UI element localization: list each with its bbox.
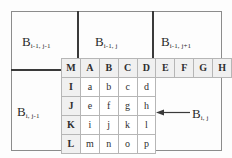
grid-cell-1-2[interactable]: g [118,97,137,116]
table-row: I a b c d [62,78,232,97]
grid-header-cell-0[interactable]: M [62,59,81,78]
grid-cell-2-1[interactable]: j [99,116,118,135]
grid-spacer [175,97,194,116]
grid-spacer [156,135,175,154]
table-row: K i j k l [62,116,232,135]
grid-row-header-1[interactable]: J [62,97,81,116]
block-label-base: B [22,34,31,49]
grid-spacer [175,135,194,154]
grid-spacer [156,78,175,97]
grid-cell-0-2[interactable]: c [118,78,137,97]
grid-cell-3-0[interactable]: m [80,135,99,154]
grid-row-header-0[interactable]: I [62,78,81,97]
grid-cell-1-3[interactable]: h [137,97,156,116]
block-label-bottom-left: Bi, j-1 [17,105,40,118]
grid-row-header-2[interactable]: K [62,116,81,135]
table-row-header: M A B C D E F G H [62,59,232,78]
grid-cell-2-0[interactable]: i [80,116,99,135]
table-row: L m n o p [62,135,232,154]
block-label-subscript: i-1, j-1 [31,42,51,50]
grid-spacer [194,78,213,97]
grid-spacer [156,116,175,135]
grid-cell-2-3[interactable]: l [137,116,156,135]
block-label-top-right: Bi-1, j+1 [161,35,191,48]
block-label-base: B [95,34,104,49]
block-label-top-mid: Bi-1, j [95,35,118,48]
grid-cell-1-0[interactable]: e [80,97,99,116]
table-row: J e f g h [62,97,232,116]
grid-spacer [213,135,232,154]
grid-spacer [175,78,194,97]
grid-cell-3-3[interactable]: p [137,135,156,154]
grid-spacer [194,97,213,116]
block-label-subscript: i-1, j [104,42,118,50]
grid-spacer [194,116,213,135]
grid-spacer [194,135,213,154]
grid-header-cell-4[interactable]: D [137,59,156,78]
grid-spacer [156,97,175,116]
grid-spacer [213,97,232,116]
grid-spacer [213,116,232,135]
grid-cell-0-3[interactable]: d [137,78,156,97]
grid-cell-0-1[interactable]: b [99,78,118,97]
figure-container: Bi-1, j-1 Bi-1, j Bi-1, j+1 Bi, j-1 Bi, … [0,0,232,158]
grid-spacer [175,116,194,135]
block-label-base: B [17,104,26,119]
grid-cell-3-2[interactable]: o [118,135,137,154]
block-label-base: B [161,34,170,49]
grid-cell-2-2[interactable]: k [118,116,137,135]
block-label-top-left: Bi-1, j-1 [22,35,51,48]
grid-spacer [213,78,232,97]
grid-header-cell-5[interactable]: E [156,59,175,78]
grid-cell-3-1[interactable]: n [99,135,118,154]
grid-cell-1-1[interactable]: f [99,97,118,116]
grid-header-cell-1[interactable]: A [80,59,99,78]
grid-header-cell-2[interactable]: B [99,59,118,78]
grid-header-cell-6[interactable]: F [175,59,194,78]
block-label-subscript: i, j-1 [26,112,40,120]
grid-row-header-3[interactable]: L [62,135,81,154]
pixel-grid: M A B C D E F G H I a b c d [61,58,232,154]
grid-header-cell-7[interactable]: G [194,59,213,78]
grid-cell-0-0[interactable]: a [80,78,99,97]
block-label-subscript: i-1, j+1 [170,42,191,50]
grid-header-cell-3[interactable]: C [118,59,137,78]
grid-header-cell-8[interactable]: H [213,59,232,78]
